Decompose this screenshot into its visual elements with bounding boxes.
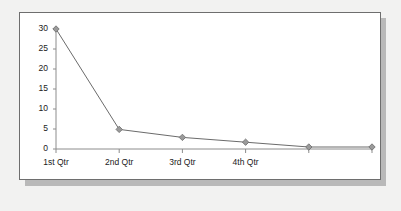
data-point-marker [179, 134, 185, 140]
x-axis-ticks [56, 149, 372, 153]
y-axis-tick-label: 5 [26, 124, 48, 133]
data-point-marker [53, 26, 59, 32]
x-axis-tick-label: 4th Qtr [218, 158, 274, 167]
y-axis-tick-label: 0 [26, 144, 48, 153]
x-axis-tick-label: 1st Qtr [28, 158, 84, 167]
screenshot-canvas: 051015202530 1st Qtr2nd Qtr3rd Qtr4th Qt… [0, 0, 401, 211]
y-axis-tick-label: 15 [26, 84, 48, 93]
data-series-line [56, 29, 372, 147]
y-axis-tick-label: 30 [26, 24, 48, 33]
x-axis-tick-label: 2nd Qtr [91, 158, 147, 167]
y-axis-tick-label: 25 [26, 44, 48, 53]
y-axis-tick-label: 10 [26, 104, 48, 113]
plot-area: 051015202530 1st Qtr2nd Qtr3rd Qtr4th Qt… [20, 13, 380, 179]
y-axis-tick-label: 20 [26, 64, 48, 73]
data-point-marker [242, 139, 248, 145]
chart-frame: 051015202530 1st Qtr2nd Qtr3rd Qtr4th Qt… [19, 12, 381, 180]
data-point-marker [116, 126, 122, 132]
line-chart-svg [20, 13, 380, 179]
data-point-markers [53, 26, 375, 150]
x-axis-tick-label: 3rd Qtr [154, 158, 210, 167]
